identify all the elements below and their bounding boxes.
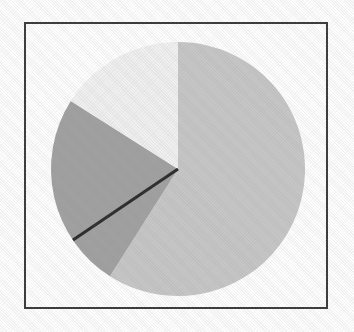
figure-root [0,0,354,332]
pie-chart[interactable] [0,0,354,332]
